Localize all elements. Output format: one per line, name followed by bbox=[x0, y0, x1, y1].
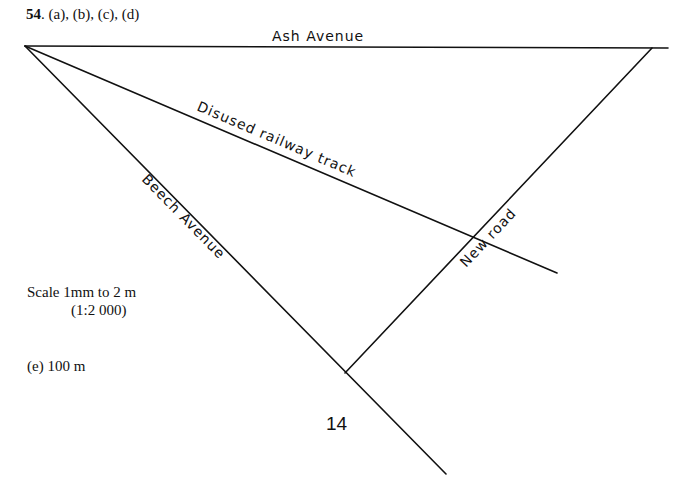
beech-avenue-label: Beech Avenue bbox=[139, 171, 229, 262]
ash-avenue-label: Ash Avenue bbox=[272, 28, 364, 44]
new-road-line bbox=[345, 48, 652, 373]
ash-avenue-line bbox=[25, 46, 668, 48]
new-road-label: New road bbox=[457, 205, 520, 270]
page-number: 14 bbox=[326, 413, 347, 435]
answer-e: (e) 100 m bbox=[27, 358, 85, 375]
scale-ratio: (1:2 000) bbox=[71, 302, 126, 319]
beech-avenue-line bbox=[25, 46, 446, 474]
scale-text: Scale 1mm to 2 m bbox=[27, 284, 136, 301]
railway-track-label: Disused railway track bbox=[195, 98, 359, 180]
